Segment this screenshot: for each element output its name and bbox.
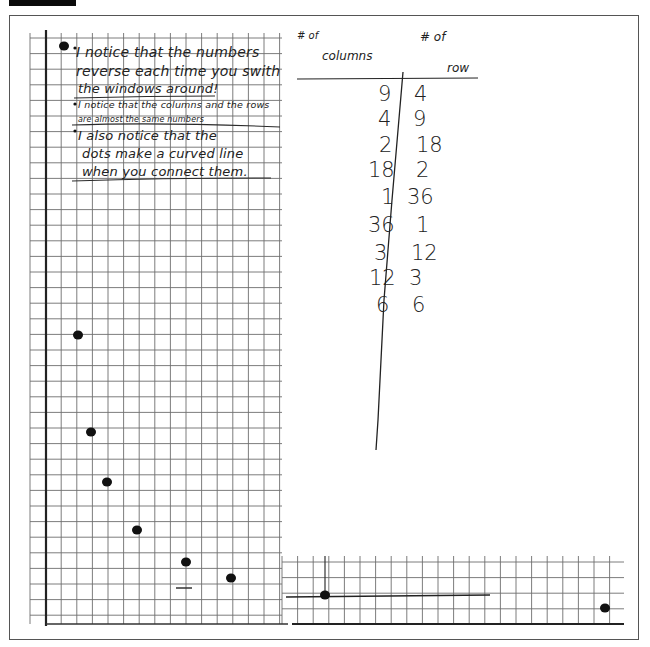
bullet-icon	[73, 129, 76, 132]
data-point	[102, 477, 112, 486]
rows-value: 1	[416, 213, 429, 237]
columns-header: columns	[322, 49, 372, 63]
rows-value: 2	[416, 158, 429, 182]
note-1-line-2: reverse each time you swith	[76, 63, 280, 79]
rows-value: 6	[412, 293, 425, 317]
data-point	[226, 573, 236, 582]
rows-value: 18	[416, 133, 443, 157]
columns-value: 18	[368, 158, 395, 182]
rows-header: row	[447, 61, 469, 75]
rows-header-prefix: # of	[420, 30, 445, 44]
data-point	[132, 525, 142, 534]
columns-value: 6	[376, 293, 389, 317]
columns-value: 2	[379, 133, 392, 157]
note-2-line-2: are almost the same numbers	[78, 115, 204, 124]
graph-paper	[0, 0, 650, 647]
columns-value: 12	[369, 266, 396, 290]
data-point	[73, 330, 83, 339]
rows-value: 3	[409, 266, 422, 290]
data-point	[600, 603, 610, 612]
rows-value: 12	[411, 241, 438, 265]
rows-value: 36	[407, 185, 434, 209]
note-3-line-3: when you connect them.	[82, 164, 248, 179]
rows-value: 4	[414, 82, 427, 106]
rows-value: 9	[413, 107, 426, 131]
data-point	[59, 41, 69, 50]
note-3-line-2: dots make a curved line	[82, 146, 243, 161]
columns-value: 36	[368, 213, 395, 237]
data-point	[86, 427, 96, 436]
columns-header-prefix: # of	[297, 30, 318, 41]
note-3-line-1: I also notice that the	[78, 128, 217, 143]
columns-value: 4	[378, 107, 391, 131]
data-point	[320, 590, 330, 599]
note-1-line-3: the windows around!	[78, 81, 219, 96]
columns-value: 1	[381, 185, 394, 209]
columns-value: 9	[378, 82, 391, 106]
note-2-line-1: I notice that the columns and the rows	[78, 99, 270, 110]
note-1-line-1: I notice that the numbers	[76, 44, 259, 60]
bullet-icon	[73, 102, 76, 105]
data-point	[181, 557, 191, 566]
columns-value: 3	[374, 241, 387, 265]
